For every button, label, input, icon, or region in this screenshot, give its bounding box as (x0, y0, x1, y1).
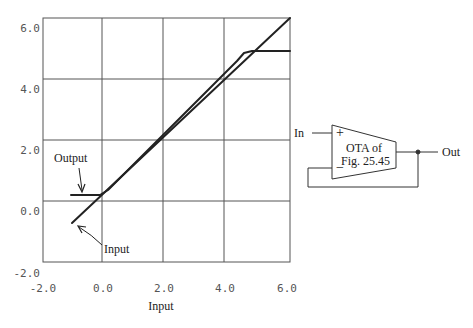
annotation-output: Output (54, 151, 88, 165)
y-tick: 0.0 (20, 205, 40, 218)
y-tick: -2.0 (14, 267, 41, 280)
plot-curves (71, 18, 290, 223)
annotation-input-arrow (79, 227, 102, 245)
plot-grid (43, 18, 290, 262)
ota-label-line2: Fig. 25.45 (341, 154, 390, 168)
figure: 6.0 4.0 2.0 0.0 -2.0 -2.0 0.0 2.0 4.0 6.… (0, 0, 473, 328)
ota-label-line1: OTA of (346, 141, 382, 155)
output-series-line (71, 51, 290, 195)
plus-sign: + (336, 125, 344, 140)
junction-node (416, 150, 420, 154)
y-tick: 6.0 (20, 22, 40, 35)
x-axis-label: Input (148, 299, 174, 313)
y-tick: 4.0 (20, 83, 40, 96)
x-tick: 2.0 (154, 282, 174, 295)
circuit-input-label: In (294, 126, 304, 140)
x-tick: 4.0 (215, 282, 235, 295)
y-axis-ticks: 6.0 4.0 2.0 0.0 -2.0 (14, 22, 41, 280)
x-tick: 0.0 (93, 282, 113, 295)
x-tick: 6.0 (277, 282, 297, 295)
annotation-input: Input (104, 242, 130, 256)
arrow-head-icon (78, 226, 86, 233)
y-tick: 2.0 (20, 144, 40, 157)
circuit-output-label: Out (442, 145, 461, 159)
x-axis-ticks: -2.0 0.0 2.0 4.0 6.0 (30, 282, 297, 295)
x-tick: -2.0 (30, 282, 57, 295)
